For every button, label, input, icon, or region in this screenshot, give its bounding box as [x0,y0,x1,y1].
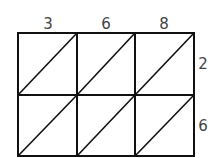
lattice-grid: 3 6 8 2 6 [0,0,213,158]
cell-diagonal-r2c1 [18,95,77,156]
top-digit-3: 8 [159,15,169,33]
top-digit-1: 3 [43,15,53,33]
cell-diagonal-r1c3 [135,33,194,95]
cell-diagonal-r2c3 [135,95,194,156]
cell-diagonal-r1c1 [18,33,77,95]
right-digit-2: 6 [198,117,208,135]
cell-diagonal-r1c2 [77,33,135,95]
top-digit-2: 6 [101,15,111,33]
right-digit-1: 2 [198,55,208,73]
cell-diagonal-r2c2 [77,95,135,156]
